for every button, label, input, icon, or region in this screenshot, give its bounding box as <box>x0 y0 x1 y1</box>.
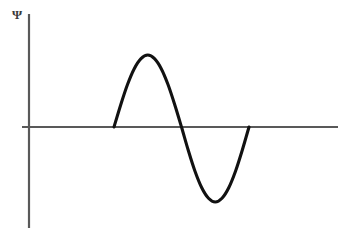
wavefunction-figure: Ψ <box>0 0 357 237</box>
plot-canvas: Ψ <box>0 0 357 237</box>
psi-symbol: Ψ <box>12 7 23 22</box>
